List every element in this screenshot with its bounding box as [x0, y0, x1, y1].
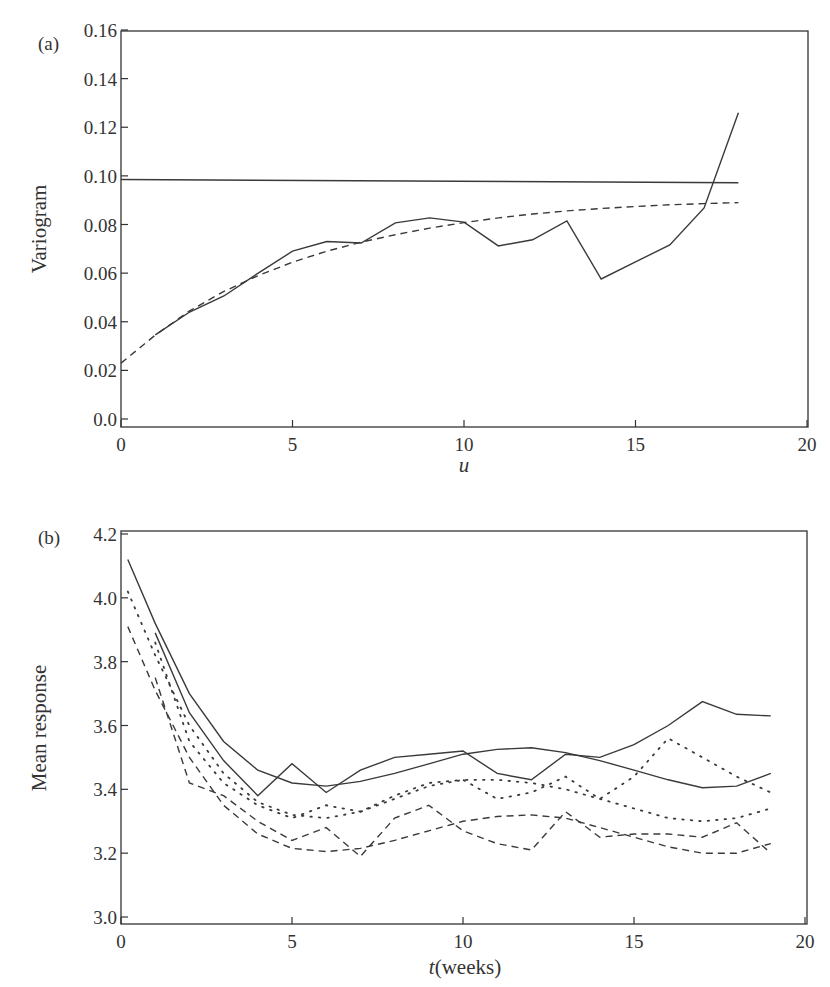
x-axis-label-b: t(weeks): [429, 955, 501, 979]
y-tick-label: 3.0: [93, 907, 117, 928]
y-axis-label-b: Mean response: [27, 665, 51, 792]
y-tick-label: 3.6: [93, 716, 117, 737]
x-tick-label: 15: [625, 931, 644, 952]
y-tick-label: 0.16: [84, 20, 117, 41]
y-tick-label: 0.06: [84, 263, 117, 284]
group-1-fitted-line: [128, 560, 771, 788]
group-1-observed-means-line: [155, 633, 771, 796]
y-tick-label: 3.2: [93, 843, 117, 864]
y-tick-label: 0.08: [84, 215, 117, 236]
y-axis-b: 3.03.23.43.63.84.04.2: [93, 524, 128, 928]
fitted-variogram-line: [121, 203, 738, 364]
sample-variogram-line: [155, 113, 738, 335]
x-tick-label: 0: [116, 434, 126, 455]
x-tick-label: 15: [626, 434, 645, 455]
y-tick-label: 3.8: [93, 652, 117, 673]
x-tick-label: 10: [454, 931, 473, 952]
x-tick-label: 0: [116, 931, 126, 952]
y-tick-label: 4.0: [93, 588, 117, 609]
variogram-chart: (a) 0.00.020.040.060.080.100.120.140.16 …: [27, 20, 817, 477]
plot-frame-b: [121, 531, 807, 924]
x-axis-label-b-text: t(weeks): [429, 955, 501, 979]
series-a: [121, 113, 738, 363]
x-tick-label: 10: [455, 434, 474, 455]
group-2-observed-means-line: [155, 643, 771, 819]
x-tick-label: 20: [798, 434, 817, 455]
series-b: [128, 560, 771, 857]
y-tick-label: 0.0: [93, 409, 117, 430]
x-tick-label: 5: [288, 434, 298, 455]
x-axis-a: 05101520: [116, 420, 816, 455]
mean-response-chart: (b) 3.03.23.43.63.84.04.2 05101520 t(wee…: [27, 524, 815, 979]
y-tick-label: 0.02: [84, 360, 117, 381]
y-tick-label: 0.12: [84, 117, 117, 138]
x-axis-label-a: u: [459, 453, 470, 477]
y-tick-label: 0.10: [84, 166, 117, 187]
group-3-observed-means-line: [155, 678, 771, 857]
x-axis-b: 05101520: [116, 917, 814, 952]
plot-frame-a: [121, 31, 808, 427]
y-tick-label: 3.4: [93, 779, 117, 800]
y-axis-label-a: Variogram: [27, 185, 51, 274]
panel-label-b: (b): [38, 527, 60, 549]
group-2-fitted-line: [128, 592, 771, 822]
y-tick-label: 0.14: [84, 69, 118, 90]
x-tick-label: 20: [796, 931, 815, 952]
process-variance-line: [121, 180, 738, 183]
x-tick-label: 5: [287, 931, 297, 952]
panel-label-a: (a): [38, 33, 59, 55]
y-tick-label: 0.04: [84, 312, 118, 333]
figure: (a) 0.00.020.040.060.080.100.120.140.16 …: [0, 0, 830, 987]
y-tick-label: 4.2: [93, 524, 117, 545]
